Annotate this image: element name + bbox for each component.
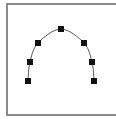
control-point-handle[interactable] xyxy=(89,59,95,65)
arc-curve[interactable] xyxy=(28,29,94,81)
control-point-handle[interactable] xyxy=(91,78,97,84)
control-point-handles xyxy=(25,26,97,84)
arc-diagram xyxy=(0,0,116,119)
control-point-handle[interactable] xyxy=(81,40,87,46)
control-point-handle[interactable] xyxy=(27,59,33,65)
control-point-handle[interactable] xyxy=(35,40,41,46)
control-point-handle[interactable] xyxy=(25,78,31,84)
control-point-handle[interactable] xyxy=(58,26,64,32)
